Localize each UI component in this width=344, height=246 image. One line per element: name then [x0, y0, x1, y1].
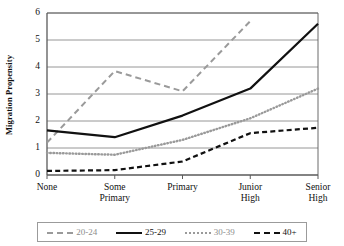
- migration-propensity-chart: Migration Propensity 0123456 NoneSomePri…: [0, 0, 344, 246]
- x-tick-label: Primary: [147, 182, 219, 193]
- y-tick-label: 0: [26, 170, 40, 180]
- x-tick-label-line: High: [214, 193, 286, 204]
- legend-item-label: 25-29: [145, 227, 166, 237]
- x-tick-label-line: Primary: [79, 193, 151, 204]
- x-tick-label-line: Junior: [214, 182, 286, 193]
- y-tick-label: 1: [26, 143, 40, 153]
- series-line-25-29: [47, 24, 318, 137]
- x-tick-label-line: Some: [79, 182, 151, 193]
- legend-item[interactable]: 20-24: [47, 227, 97, 237]
- x-tick-label-line: Senior: [282, 182, 344, 193]
- series-line-20-24: [47, 21, 250, 143]
- y-axis-title: Migration Propensity: [2, 30, 16, 160]
- plot-svg: [0, 0, 344, 200]
- x-tick-label: JuniorHigh: [214, 182, 286, 203]
- x-tick-label-line: None: [11, 182, 83, 193]
- y-axis-title-text: Migration Propensity: [4, 55, 14, 135]
- series-line-30-39: [47, 89, 318, 155]
- legend-item[interactable]: 30-39: [185, 227, 235, 237]
- y-tick-label: 2: [26, 116, 40, 126]
- legend-item[interactable]: 40+: [254, 227, 297, 237]
- legend-item-label: 40+: [283, 227, 297, 237]
- x-tick-label: None: [11, 182, 83, 193]
- x-tick-label-line: Primary: [147, 182, 219, 193]
- y-tick-label: 5: [26, 35, 40, 45]
- legend-line-swatch-icon: [185, 229, 211, 236]
- x-tick-label-line: High: [282, 193, 344, 204]
- legend-line-swatch-icon: [254, 229, 280, 236]
- y-tick-label: 6: [26, 8, 40, 18]
- legend-item-label: 20-24: [76, 227, 97, 237]
- legend-item[interactable]: 25-29: [116, 227, 166, 237]
- x-tick-label: SeniorHigh: [282, 182, 344, 203]
- plot-area: Migration Propensity 0123456 NoneSomePri…: [0, 0, 344, 200]
- x-tick-label: SomePrimary: [79, 182, 151, 203]
- y-tick-label: 4: [26, 62, 40, 72]
- legend-item-label: 30-39: [214, 227, 235, 237]
- y-tick-label: 3: [26, 89, 40, 99]
- legend: 20-2425-2930-3940+: [37, 222, 307, 242]
- legend-line-swatch-icon: [116, 229, 142, 236]
- legend-line-swatch-icon: [47, 229, 73, 236]
